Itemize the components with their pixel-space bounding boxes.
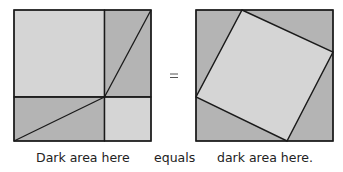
- large-square: [14, 10, 105, 97]
- small-square: [105, 97, 152, 141]
- caption-right: dark area here.: [217, 150, 313, 166]
- caption-left: Dark area here: [36, 150, 130, 166]
- left-figure: [14, 10, 151, 141]
- right-figure: [196, 10, 333, 141]
- pythagorean-diagram: [0, 0, 343, 172]
- equals-sign: [170, 74, 178, 78]
- caption-equals: equals: [154, 150, 195, 166]
